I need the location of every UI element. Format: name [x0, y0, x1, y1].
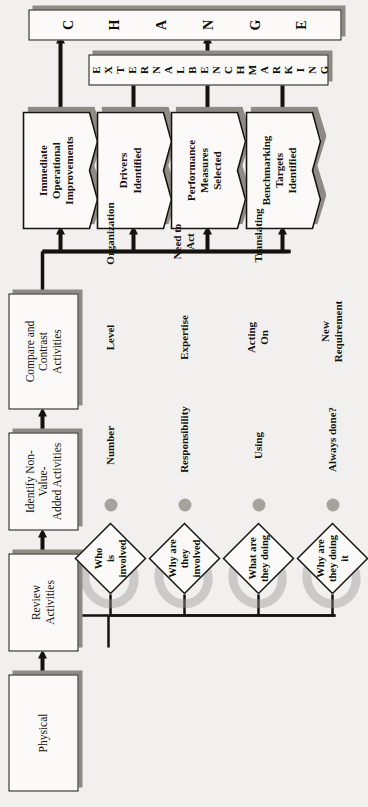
banner-letter: A — [161, 66, 173, 74]
decision-why-are-they-involved[interactable]: Why are they involved — [148, 522, 220, 594]
answer-label-need-to-act: Need to Act — [170, 201, 196, 281]
decision-label: What are they doing — [222, 522, 294, 594]
process-box-label: Physical — [36, 710, 50, 755]
banner-letter: E — [125, 66, 137, 73]
answer-label-always-done: Always done? — [325, 393, 338, 485]
banner-letter: G — [247, 19, 263, 30]
banner-letter: E — [197, 66, 209, 73]
process-box-label: Identify Non- Value- Added Activities — [23, 439, 64, 523]
banner-change: C H A N G E — [28, 9, 341, 40]
banner-letter: R — [269, 66, 281, 74]
answer-label-organization: Organization — [103, 185, 116, 281]
answer-label-acting-on: Acting On — [244, 297, 270, 377]
process-box-label: Compare and Contrast Activities — [23, 317, 64, 385]
banner-letter: G — [317, 65, 329, 74]
banner-letter: H — [233, 65, 245, 74]
process-box-compare-and-contrast[interactable]: Compare and Contrast Activities — [8, 293, 78, 409]
banner-letter: X — [101, 66, 113, 74]
banner-letter: L — [173, 66, 185, 73]
banner-letter: R — [137, 66, 149, 74]
banner-letter: T — [113, 66, 125, 73]
answer-label-using: Using — [251, 405, 264, 485]
answer-label-expertise: Expertise — [177, 297, 190, 377]
banner-letter: N — [149, 66, 161, 74]
banner-letter: N — [305, 66, 317, 74]
process-box-physical[interactable]: Physical — [8, 674, 78, 791]
answer-dot — [104, 498, 117, 511]
banner-letter: E — [293, 20, 309, 29]
decision-what-are-they-doing[interactable]: What are they doing — [222, 522, 294, 594]
banner-letter: A — [153, 19, 169, 29]
document-immediate-operational-improvements[interactable]: Immediate Operational Improvements — [22, 111, 98, 229]
banner-letter: N — [200, 19, 216, 29]
banner-letter: H — [106, 19, 122, 30]
answer-label-new-requirement: New Requirement — [318, 285, 344, 377]
decision-who-is-involved[interactable]: Who is involved — [74, 522, 146, 594]
answer-label-responsibility: Responsibility — [177, 393, 190, 485]
process-box-label: Review Activities — [29, 577, 56, 628]
answer-dot — [178, 498, 191, 511]
banner-letter: B — [185, 66, 197, 73]
answer-label-level: Level — [103, 297, 116, 377]
banner-letter: A — [257, 66, 269, 74]
process-box-review-activities[interactable]: Review Activities — [8, 553, 78, 651]
banner-letter: E — [89, 66, 101, 73]
banner-letter: C — [60, 19, 76, 29]
decision-why-are-they-doing-it[interactable]: Why are they doing it — [296, 522, 368, 594]
answer-dot — [252, 498, 265, 511]
decision-label: Who is involved — [74, 522, 146, 594]
banner-letter: M — [245, 64, 257, 74]
answer-label-number: Number — [103, 405, 116, 485]
banner-external-benchmarking: E X T E R N A L B E N C H M A R K I N G — [88, 54, 328, 85]
banner-letter: K — [281, 65, 293, 74]
banner-letter: C — [221, 66, 233, 74]
banner-letter: N — [209, 66, 221, 74]
banner-letter: I — [293, 67, 305, 71]
answer-label-translating: Translating — [251, 189, 264, 281]
process-box-identify-non-value-added[interactable]: Identify Non- Value- Added Activities — [8, 432, 78, 530]
decision-label: Why are they involved — [148, 522, 220, 594]
answer-dot — [326, 498, 339, 511]
decision-label: Why are they doing it — [296, 522, 368, 594]
document-label: Immediate Operational Improvements — [22, 111, 98, 229]
